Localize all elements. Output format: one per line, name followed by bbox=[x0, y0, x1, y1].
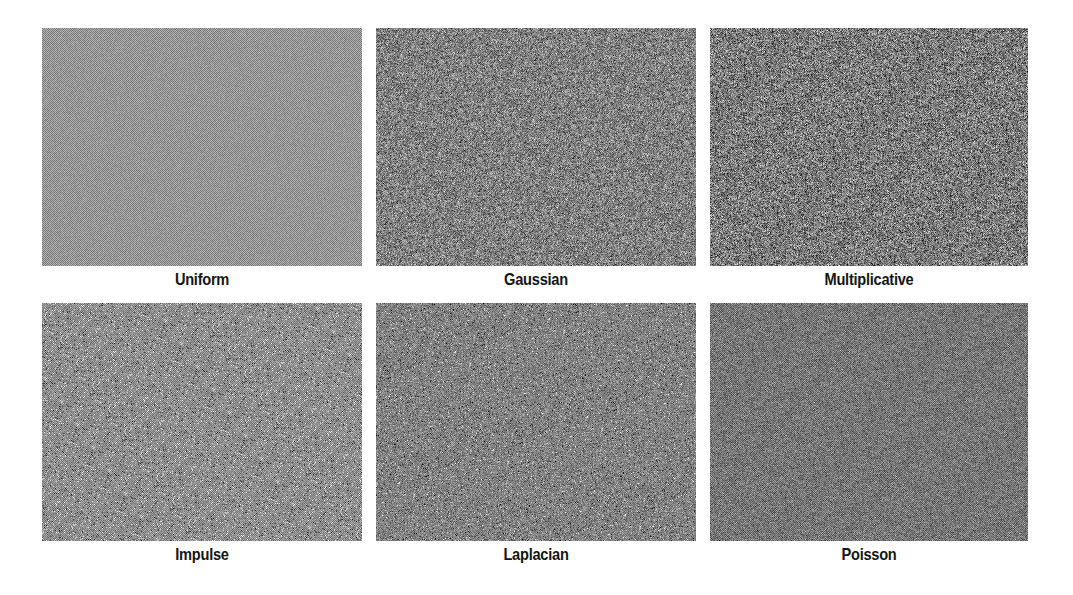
panel-uniform: Uniform bbox=[42, 28, 362, 291]
panel-label: Gaussian bbox=[398, 269, 673, 291]
gaussian-noise-image bbox=[376, 28, 696, 266]
panel-gaussian: Gaussian bbox=[376, 28, 696, 291]
panel-label: Laplacian bbox=[398, 544, 673, 566]
poisson-noise-image bbox=[710, 303, 1028, 541]
panel-laplacian: Laplacian bbox=[376, 303, 696, 566]
panel-label: Poisson bbox=[732, 544, 1005, 566]
panel-label: Multiplicative bbox=[732, 269, 1005, 291]
uniform-noise-image bbox=[42, 28, 362, 266]
panel-label: Uniform bbox=[64, 269, 339, 291]
panel-impulse: Impulse bbox=[42, 303, 362, 566]
panel-multiplicative: Multiplicative bbox=[710, 28, 1028, 291]
multiplicative-noise-image bbox=[710, 28, 1028, 266]
panel-poisson: Poisson bbox=[710, 303, 1028, 566]
impulse-noise-image bbox=[42, 303, 362, 541]
panel-label: Impulse bbox=[64, 544, 339, 566]
laplacian-noise-image bbox=[376, 303, 696, 541]
